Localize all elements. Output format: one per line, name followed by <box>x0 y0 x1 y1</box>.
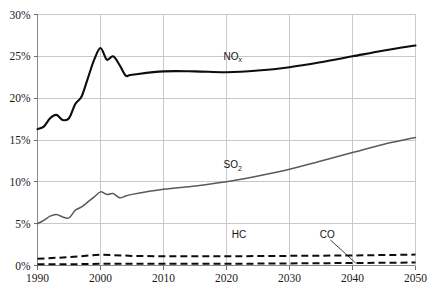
series-label-hc: HC <box>232 229 246 240</box>
y-tick-label: 25% <box>9 50 31 62</box>
series-label-co: CO <box>320 229 335 240</box>
x-tick-label: 2010 <box>152 272 175 284</box>
y-tick-label: 20% <box>9 92 31 104</box>
chart-canvas: NOxSO2HCCO 0%5%10%15%20%25%30% 199020002… <box>0 0 441 294</box>
emissions-share-chart: NOxSO2HCCO 0%5%10%15%20%25%30% 199020002… <box>0 0 441 294</box>
x-tick-label: 2020 <box>215 272 238 284</box>
x-tick-label: 2050 <box>404 272 427 284</box>
x-tick-label: 2040 <box>341 272 364 284</box>
y-tick-label: 15% <box>9 134 31 146</box>
y-tick-label: 0% <box>15 260 31 272</box>
y-tick-label: 30% <box>9 9 31 21</box>
y-tick-label: 10% <box>9 176 31 188</box>
x-tick-label: 1990 <box>26 272 49 284</box>
x-tick-label: 2000 <box>89 272 112 284</box>
x-tick-label: 2030 <box>278 272 301 284</box>
y-tick-label: 5% <box>15 218 31 230</box>
